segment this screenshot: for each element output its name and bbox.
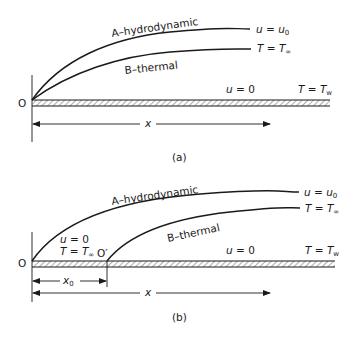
origin-label: O bbox=[18, 97, 26, 109]
free-stream-temp-label: T = T∞ bbox=[257, 42, 291, 56]
origin-label: O bbox=[18, 257, 26, 269]
flat-plate bbox=[32, 100, 330, 106]
x-dimension-arrow: x bbox=[33, 117, 270, 129]
x0-dimension-arrow: x0 bbox=[33, 274, 106, 288]
figure-b: O O′ A–hydrodynamic B–thermal u = 0 T = … bbox=[18, 183, 339, 323]
wall-velocity-label: u = 0 bbox=[226, 244, 255, 256]
figure-a-caption: (a) bbox=[172, 151, 187, 163]
wall-temp-label: T = Tw bbox=[298, 83, 332, 97]
x-axis-label: x bbox=[144, 117, 152, 129]
unheated-temp-label: T = T∞ bbox=[60, 245, 94, 259]
boundary-layer-diagram: O A–hydrodynamic B–thermal u = u0 T = T∞… bbox=[0, 0, 355, 338]
thermal-boundary-curve bbox=[32, 49, 251, 100]
figure-a: O A–hydrodynamic B–thermal u = u0 T = T∞… bbox=[18, 15, 332, 163]
wall-velocity-label: u = 0 bbox=[226, 83, 255, 95]
figure-b-caption: (b) bbox=[172, 311, 187, 323]
free-stream-velocity-label: u = u0 bbox=[256, 23, 289, 37]
origin-prime-label: O′ bbox=[97, 247, 108, 259]
curve-b-label: B–thermal bbox=[124, 58, 178, 76]
free-stream-velocity-label: u = u0 bbox=[304, 186, 337, 200]
curve-a-label: A–hydrodynamic bbox=[111, 183, 199, 207]
wall-temp-label: T = Tw bbox=[305, 244, 339, 258]
x0-label: x0 bbox=[62, 274, 74, 288]
free-stream-temp-label: T = T∞ bbox=[305, 202, 339, 216]
x-axis-label: x bbox=[144, 286, 152, 298]
curve-a-label: A–hydrodynamic bbox=[111, 15, 199, 39]
flat-plate bbox=[32, 261, 335, 267]
unheated-velocity-label: u = 0 bbox=[60, 233, 89, 245]
curve-b-label: B–thermal bbox=[166, 221, 221, 244]
